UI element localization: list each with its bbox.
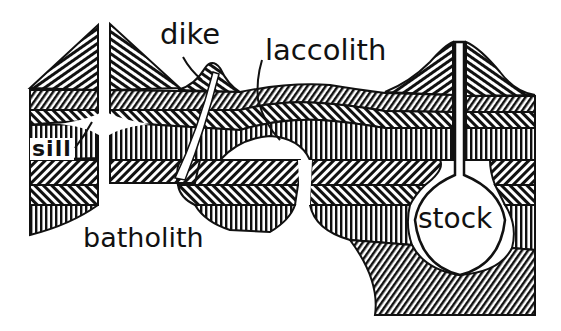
label-dike: dike — [160, 20, 220, 49]
dike-pointer — [183, 57, 202, 80]
laccolith-feeder — [298, 160, 312, 205]
label-stock: stock — [418, 205, 492, 233]
right-mountain-right-half — [466, 42, 535, 96]
left-mountain-left-half — [30, 25, 98, 90]
right-mountain-left-half — [385, 42, 453, 95]
label-batholith: batholith — [83, 224, 204, 251]
label-sill: sill — [30, 138, 74, 160]
label-laccolith: laccolith — [265, 36, 386, 65]
